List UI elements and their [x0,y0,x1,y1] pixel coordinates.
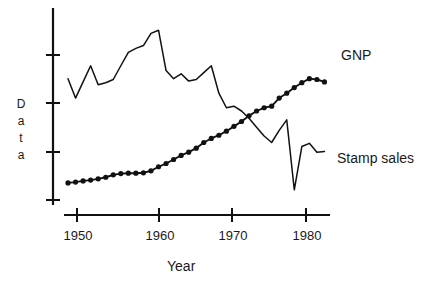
series-marker-gnp [322,79,327,84]
series-marker-gnp [224,129,229,134]
series-marker-gnp [96,176,101,181]
chart-figure: 1950 1960 1970 1980 D a t a Year GNP Sta… [0,0,437,289]
series-marker-gnp [209,136,214,141]
series-marker-gnp [284,91,289,96]
x-tick-label-1980: 1980 [288,228,326,243]
y-axis-title: D a t a [12,96,30,164]
x-tick-label-1970: 1970 [214,228,252,243]
series-line-stamp-sales [68,30,324,190]
chart-plot-area [0,0,437,289]
y-axis-title-letter-3: a [18,147,25,164]
series-marker-gnp [148,168,153,173]
series-label-gnp: GNP [341,47,371,63]
series-marker-gnp [156,164,161,169]
series-marker-gnp [292,85,297,90]
series-marker-gnp [299,80,304,85]
series-label-stamp-sales: Stamp sales [337,150,414,166]
series-marker-gnp [133,171,138,176]
series-marker-gnp [277,95,282,100]
y-axis-title-letter-0: D [17,96,26,113]
series-marker-gnp [88,177,93,182]
series-marker-gnp [186,150,191,155]
series-marker-gnp [231,124,236,129]
series-marker-gnp [262,105,267,110]
x-tick-label-1950: 1950 [59,228,97,243]
y-axis-title-letter-1: a [18,113,25,130]
series-marker-gnp [73,180,78,185]
series-marker-gnp [201,140,206,145]
x-tick-label-1960: 1960 [141,228,179,243]
series-marker-gnp [126,171,131,176]
series-marker-gnp [194,146,199,151]
series-marker-gnp [307,76,312,81]
series-marker-gnp [171,157,176,162]
series-marker-gnp [254,108,259,113]
series-marker-gnp [246,113,251,118]
series-marker-gnp [269,104,274,109]
series-marker-gnp [118,171,123,176]
series-marker-gnp [65,180,70,185]
series-marker-gnp [80,178,85,183]
y-axis-title-letter-2: t [19,130,22,147]
series-marker-gnp [111,172,116,177]
series-marker-gnp [314,77,319,82]
series-marker-gnp [141,170,146,175]
x-axis-title: Year [167,258,195,274]
series-marker-gnp [179,153,184,158]
series-marker-gnp [163,161,168,166]
series-marker-gnp [216,133,221,138]
series-marker-gnp [103,175,108,180]
series-marker-gnp [239,119,244,124]
